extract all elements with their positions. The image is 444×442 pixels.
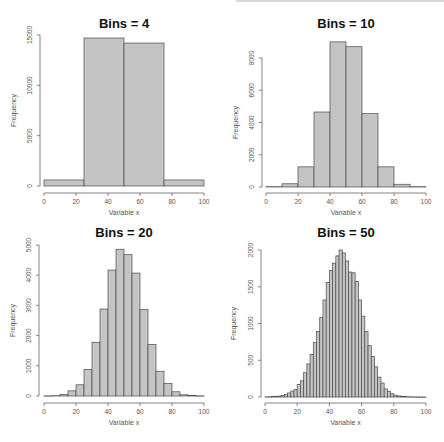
y-axis: 010002000300040005000Frequency [9,237,39,397]
y-tick-label: 0 [25,394,32,398]
histogram-bar [362,316,365,397]
x-tick-label: 80 [168,408,176,415]
histogram-bar [320,318,323,397]
histogram-bars [44,249,204,396]
histogram-bar [68,391,76,396]
x-tick-label: 0 [42,198,46,205]
x-tick-label: 20 [294,198,302,205]
chart-title: Bins = 4 [99,16,150,31]
x-axis: 020406080100Variable x [264,193,432,216]
y-axis: 050001000015000Frequency [10,26,40,188]
histogram-bar [342,253,345,397]
histogram-bar [400,396,403,397]
histogram-bar [349,272,352,397]
y-tick-label: 5000 [25,237,32,252]
y-tick-label: 1000 [25,358,32,373]
histogram-bar [132,273,140,396]
x-tick-label: 0 [263,408,267,415]
histogram-bar [156,371,164,396]
histogram-bar [365,332,368,397]
x-tick-label: 100 [199,408,210,415]
histogram-bar [371,357,374,397]
histogram-bar [339,250,342,397]
histogram-bar [352,273,355,397]
x-tick-label: 20 [294,408,302,415]
histogram-bar [278,396,281,397]
histogram-bar [291,391,294,397]
histogram-bar [284,394,287,397]
histogram-bars [44,38,204,186]
y-tick-label: 0 [247,395,254,399]
x-axis-label: Variable x [330,419,361,426]
histogram-panel-3: Bins = 20010002000300040005000Frequency0… [9,225,210,426]
y-tick-label: 2000 [25,328,32,343]
histogram-bar [304,373,307,397]
histogram-bar [378,167,394,187]
y-tick-label: 4000 [248,115,255,130]
histogram-bar [378,377,381,397]
y-tick-label: 0 [248,185,255,189]
histogram-bar [329,271,332,397]
y-axis-label: Frequency [10,93,18,127]
histogram-bar [275,396,278,397]
histogram-bar [100,309,108,396]
histogram-bar [297,385,300,397]
histogram-bar [368,346,371,397]
histogram-bars [265,250,426,397]
y-tick-label: 1500 [247,279,254,294]
histogram-bar [346,47,362,187]
histogram-bar [310,354,313,397]
x-axis-label: Variable x [109,419,140,426]
histogram-bar [294,390,297,397]
y-tick-label: 2000 [247,242,254,257]
x-axis-label: Variable x [331,209,362,216]
histogram-bar [346,261,349,397]
histogram-bar [381,383,384,397]
histogram-bar [76,385,84,396]
histogram-bar [336,256,339,397]
x-axis: 020406080100Variable x [42,193,210,216]
x-tick-label: 80 [168,198,176,205]
x-axis: 020406080100Variable x [42,403,210,426]
x-axis-label: Variable x [109,209,140,216]
x-tick-label: 60 [358,198,366,205]
histogram-bar [397,396,400,397]
histogram-bar [313,343,316,397]
histogram-bar [384,389,387,397]
y-tick-label: 500 [247,354,254,365]
histogram-bar [60,394,68,396]
histogram-bar [355,282,358,397]
y-tick-label: 0 [26,184,33,188]
y-tick-label: 1000 [247,316,254,331]
histogram-panel-1: Bins = 4050001000015000Frequency02040608… [10,16,210,216]
histogram-bar [391,394,394,397]
histogram-bar [140,309,148,396]
x-tick-label: 80 [390,408,398,415]
x-tick-label: 40 [326,198,334,205]
histogram-bar [394,395,397,397]
histogram-bar [387,391,390,397]
x-tick-label: 100 [199,198,210,205]
x-tick-label: 80 [390,198,398,205]
histogram-bar [281,396,284,397]
histogram-bar [362,114,378,187]
histogram-bar [307,364,310,397]
y-tick-label: 4000 [25,268,32,283]
y-axis-label: Frequency [232,105,240,139]
histogram-bar [326,282,329,397]
y-axis-label: Frequency [9,303,17,337]
histogram-bar [116,249,124,396]
y-tick-label: 2000 [248,147,255,162]
histogram-bar [298,167,314,187]
chart-title: Bins = 50 [317,225,374,240]
histogram-bar [394,184,410,187]
histogram-bar [333,263,336,397]
y-tick-label: 15000 [26,26,33,44]
y-tick-label: 6000 [248,83,255,98]
x-tick-label: 20 [72,198,80,205]
x-tick-label: 100 [421,408,432,415]
x-tick-label: 0 [42,408,46,415]
x-tick-label: 100 [421,198,432,205]
x-tick-label: 0 [264,198,268,205]
histogram-bar [164,180,204,186]
